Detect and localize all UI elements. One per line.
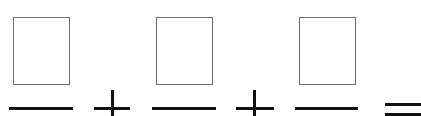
numerator-box-2[interactable] <box>156 17 213 85</box>
plus-sign-2-vertical <box>253 90 256 116</box>
equals-sign-bottom <box>385 113 421 116</box>
fraction-bar-1 <box>9 107 73 110</box>
equals-sign-top <box>385 103 421 106</box>
fraction-bar-3 <box>295 107 358 110</box>
plus-sign-1-vertical <box>111 90 114 116</box>
numerator-box-1[interactable] <box>13 17 70 85</box>
numerator-box-3[interactable] <box>299 17 356 85</box>
fraction-bar-2 <box>152 107 216 110</box>
